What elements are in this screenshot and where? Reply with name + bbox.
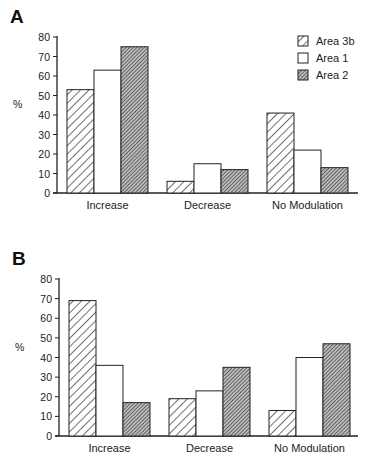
figure: A % 01020304050607080 IncreaseDecreaseNo… [0,0,367,457]
legend-swatch-area-1 [298,53,308,63]
category-label: Decrease [186,442,233,454]
y-tick-label: 70 [40,293,52,305]
panel-b-category-labels: IncreaseDecreaseNo Modulation [88,442,345,454]
panel-a-ylabel: % [13,98,22,110]
y-tick-label: 40 [40,352,52,364]
panel-b-bars [69,301,350,436]
panel-a-category-labels: IncreaseDecreaseNo Modulation [86,199,343,211]
bar-area-1-increase [94,70,121,193]
y-tick-label: 20 [40,391,52,403]
bar-area-1-decrease [194,164,221,193]
y-tick-label: 50 [38,90,50,102]
panel-a: A % 01020304050607080 IncreaseDecreaseNo… [10,6,358,211]
legend: Area 3b Area 1 Area 2 [298,35,355,81]
y-tick-label: 50 [40,332,52,344]
y-tick-label: 10 [38,168,50,180]
panel-a-label: A [10,6,24,27]
category-label: No Modulation [274,442,345,454]
bar-area-1-increase [96,365,123,436]
category-label: Increase [88,442,130,454]
bar-area-2-increase [123,403,150,436]
bar-area-2-decrease [223,367,250,436]
y-tick-label: 30 [40,371,52,383]
bar-area-1-decrease [196,391,223,436]
panel-b-ylabel: % [15,341,24,353]
bar-area-2-no-modulation [321,168,348,193]
y-tick-label: 60 [38,70,50,82]
bar-area-2-decrease [221,170,248,193]
legend-swatch-area-2 [298,70,308,80]
y-tick-label: 0 [46,430,52,442]
y-tick-label: 40 [38,109,50,121]
y-tick-label: 20 [38,148,50,160]
bar-area-3b-decrease [169,399,196,436]
y-tick-label: 70 [38,51,50,63]
bar-area-3b-no-modulation [267,113,294,193]
y-tick-label: 80 [38,31,50,43]
panel-a-bars [67,47,348,193]
legend-label-area-1: Area 1 [316,52,348,64]
legend-label-area-2: Area 2 [316,69,348,81]
category-label: Increase [86,199,128,211]
panel-b: B % 01020304050607080 IncreaseDecreaseNo… [12,248,358,454]
bar-area-3b-no-modulation [269,410,296,436]
y-tick-label: 80 [40,273,52,285]
bar-area-1-no-modulation [296,358,323,437]
bar-area-2-no-modulation [323,344,350,436]
bar-area-3b-decrease [167,181,194,193]
category-label: No Modulation [272,199,343,211]
y-tick-label: 60 [40,312,52,324]
legend-swatch-area-3b [298,36,308,46]
y-tick-label: 0 [44,187,50,199]
y-tick-label: 10 [40,410,52,422]
legend-label-area-3b: Area 3b [316,35,355,47]
bar-area-3b-increase [67,90,94,193]
y-tick-label: 30 [38,129,50,141]
category-label: Decrease [184,199,231,211]
bar-area-1-no-modulation [294,150,321,193]
panel-b-label: B [12,248,26,269]
bar-area-2-increase [121,47,148,193]
bar-area-3b-increase [69,301,96,436]
